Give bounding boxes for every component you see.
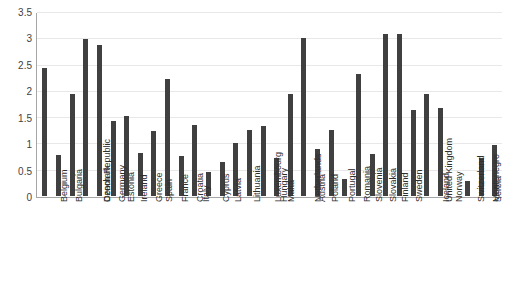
x-axis-tick: Estonia: [105, 200, 119, 280]
x-axis-tick: United Kingdom: [406, 200, 420, 280]
x-axis-tick: Bulgaria: [51, 200, 65, 280]
x-axis-tick-label: Bulgaria: [74, 169, 83, 202]
x-axis-tick: Slovakia: [365, 200, 379, 280]
x-axis-tick-label: Cyprus: [222, 173, 231, 202]
x-axis-tick: Serbia: [475, 200, 489, 280]
y-axis-tick-label: 1.5: [18, 114, 32, 124]
x-axis-tick-label: Switzerland: [477, 155, 486, 202]
x-axis-tick: Denmark: [78, 200, 92, 280]
bar-slot: [202, 13, 216, 196]
bar: [42, 68, 47, 196]
x-axis-tick-label: Portugal: [348, 168, 357, 202]
x-axis-tick-label: Austria: [318, 174, 327, 202]
x-axis-tick-label: Estonia: [127, 172, 136, 202]
bar-slot: [297, 13, 311, 196]
x-axis-tick: Poland: [310, 200, 324, 280]
x-axis-tick: Portugal: [324, 200, 338, 280]
bar-slot: [174, 13, 188, 196]
x-axis-tick: Norway: [433, 200, 447, 280]
y-axis-tick-label: 1: [26, 140, 32, 150]
x-axis: BelgiumBulgariaCzech RepublicDenmarkGerm…: [37, 200, 502, 280]
x-axis-tick-label: Finland: [400, 172, 409, 202]
x-axis-tick-label: Slovakia: [389, 168, 398, 202]
x-axis-tick: France: [160, 200, 174, 280]
bar-slot: [188, 13, 202, 196]
x-axis-tick: Montenegro: [461, 200, 475, 280]
x-axis-tick-label: Ireland: [140, 174, 149, 202]
x-axis-tick-label: Norway: [456, 171, 465, 202]
bar: [465, 181, 470, 196]
y-axis-tick-label: 3: [26, 34, 32, 44]
y-axis-tick-label: 0: [26, 193, 32, 203]
x-axis-tick: Spain: [146, 200, 160, 280]
x-axis-tick: Hungary: [256, 200, 270, 280]
x-axis-tick: Italy: [187, 200, 201, 280]
bar: [247, 130, 252, 196]
y-axis: 00.511.522.533.5: [0, 13, 32, 198]
x-axis-tick: Greece: [133, 200, 147, 280]
x-axis-tick-label: Lithuania: [254, 165, 263, 202]
y-axis-tick-label: 3.5: [18, 8, 32, 18]
bar-chart: 00.511.522.533.5 BelgiumBulgariaCzech Re…: [0, 0, 506, 281]
x-axis-tick-label: Malta: [287, 180, 296, 202]
x-axis-tick: Malta: [269, 200, 283, 280]
x-axis-tick: Ireland: [119, 200, 133, 280]
bar-slot: [161, 13, 175, 196]
x-axis-tick-label: Iceland: [441, 173, 450, 202]
x-axis-tick-label: Belgium: [60, 169, 69, 202]
bar: [424, 94, 429, 196]
x-axis-tick: Netherlands: [283, 200, 297, 280]
x-axis-tick-label: Romania: [363, 166, 372, 202]
bar-slot: [461, 13, 475, 196]
bar: [301, 38, 306, 196]
x-axis-tick: Switzerland: [447, 200, 461, 280]
x-axis-tick-label: Slovenia: [376, 167, 385, 202]
x-axis-tick: Lithuania: [228, 200, 242, 280]
x-axis-tick: Turkey: [488, 200, 502, 280]
x-axis-tick: Czech Republic: [64, 200, 78, 280]
x-axis-tick: Latvia: [215, 200, 229, 280]
bar-slot: [38, 13, 52, 196]
bar-slot: [324, 13, 338, 196]
x-axis-tick-label: Sweden: [416, 169, 425, 202]
x-axis-tick: Iceland: [420, 200, 434, 280]
bar: [83, 39, 88, 196]
bar-slot: [133, 13, 147, 196]
x-axis-tick: Luxembourg: [242, 200, 256, 280]
x-axis-tick: Cyprus: [201, 200, 215, 280]
x-axis-tick-label: Spain: [165, 179, 174, 202]
x-axis-tick: Germany: [92, 200, 106, 280]
x-axis-tick: Slovenia: [351, 200, 365, 280]
bar: [356, 74, 361, 196]
bar-slot: [215, 13, 229, 196]
x-axis-tick-label: France: [181, 174, 190, 202]
bar-slot: [147, 13, 161, 196]
x-axis-tick: Finland: [379, 200, 393, 280]
y-axis-tick-label: 2: [26, 87, 32, 97]
bar-slot: [229, 13, 243, 196]
x-axis-tick: Belgium: [37, 200, 51, 280]
x-axis-tick: Sweden: [392, 200, 406, 280]
x-axis-tick-label: Denmark: [103, 165, 112, 202]
x-axis-tick-label: Serbia: [494, 176, 503, 202]
x-axis-tick-label: Greece: [154, 172, 163, 202]
y-axis-tick-label: 2.5: [18, 61, 32, 71]
y-axis-tick-label: 0.5: [18, 167, 32, 177]
x-axis-tick-label: Germany: [117, 165, 126, 202]
x-axis-tick: Croatia: [174, 200, 188, 280]
x-axis-tick: Romania: [338, 200, 352, 280]
x-axis-tick-label: Poland: [331, 174, 340, 202]
x-axis-tick: Austria: [297, 200, 311, 280]
x-axis-tick-label: Latvia: [234, 178, 243, 202]
